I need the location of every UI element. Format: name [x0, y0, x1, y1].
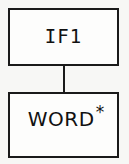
node-word-label-group: WORD*: [28, 109, 103, 129]
kleene-star-superscript: *: [96, 102, 105, 122]
diagram-canvas: IF1 WORD*: [0, 0, 129, 164]
node-word[interactable]: WORD*: [8, 92, 119, 158]
node-if1-label: IF1: [45, 27, 82, 46]
node-if1[interactable]: IF1: [8, 8, 119, 66]
node-word-label: WORD: [28, 107, 95, 131]
edge-if1-to-word: [63, 64, 65, 94]
